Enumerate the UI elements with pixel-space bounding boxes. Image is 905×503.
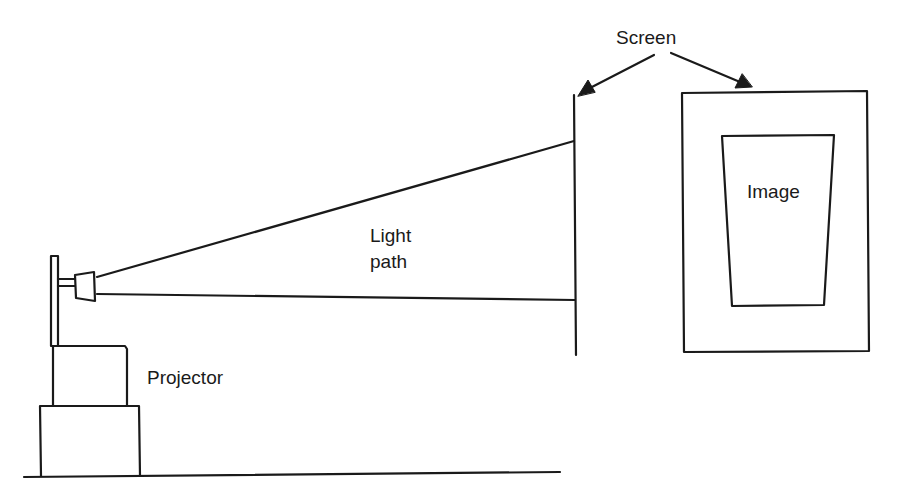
ground-line <box>24 472 560 477</box>
projector-label: Projector <box>147 366 223 390</box>
projector-lens <box>75 272 95 301</box>
screen-arrow-left-shaft <box>590 55 654 88</box>
projector-base <box>40 406 140 476</box>
projected-image <box>722 135 834 306</box>
screen-arrow-left-head <box>578 80 595 96</box>
projector-diagram <box>0 0 905 503</box>
light-beam-top <box>97 141 574 277</box>
screen-side-view <box>574 95 576 355</box>
light-beam-bottom <box>97 294 575 300</box>
screen-front-view <box>682 91 869 352</box>
light-path-label-line1: Light <box>370 224 411 248</box>
light-path-label-line2: path <box>370 250 407 274</box>
projector-body <box>53 346 127 406</box>
screen-arrow-right-shaft <box>671 53 740 82</box>
screen-label: Screen <box>616 26 676 50</box>
lens-stand-pole <box>51 256 58 346</box>
image-label: Image <box>747 180 800 204</box>
